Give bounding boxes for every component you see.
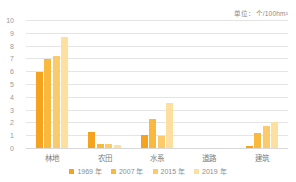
legend: 1969 年2007 年2015 年2019 年 — [0, 166, 296, 176]
bar — [61, 37, 68, 148]
x-axis-label: 建筑 — [236, 152, 288, 163]
legend-label: 1969 年 — [77, 166, 102, 176]
bar — [97, 144, 104, 148]
bar — [254, 133, 261, 148]
bar — [158, 136, 165, 148]
bar-chart: 单位：个/100hm² 109876543210 林地农田水系道路建筑 1969… — [0, 0, 296, 182]
y-tick-label: 9 — [0, 29, 14, 36]
legend-label: 2015 年 — [161, 166, 186, 176]
bar — [44, 59, 51, 148]
gridline — [26, 148, 288, 149]
legend-swatch — [194, 169, 199, 174]
y-tick-label: 4 — [0, 93, 14, 100]
y-tick-label: 0 — [0, 145, 14, 152]
bar-group — [141, 20, 174, 148]
bar — [105, 144, 112, 148]
bar — [88, 132, 95, 148]
legend-label: 2007 年 — [119, 166, 144, 176]
bar-groups — [26, 20, 288, 148]
x-axis-label: 农田 — [78, 152, 130, 163]
y-tick-label: 6 — [0, 68, 14, 75]
legend-label: 2019 年 — [202, 166, 227, 176]
unit-caption: 单位：个/100hm² — [234, 8, 288, 18]
x-axis-label: 道路 — [183, 152, 235, 163]
bar — [36, 72, 43, 148]
y-tick-label: 2 — [0, 119, 14, 126]
legend-swatch — [111, 169, 116, 174]
bar — [53, 56, 60, 148]
bar — [114, 145, 121, 148]
y-tick-label: 8 — [0, 42, 14, 49]
legend-swatch — [69, 169, 74, 174]
y-tick-label: 1 — [0, 132, 14, 139]
bar — [141, 135, 148, 148]
y-tick-label: 10 — [0, 17, 14, 24]
y-tick-label: 7 — [0, 55, 14, 62]
bar-group — [246, 20, 279, 148]
x-axis-label: 林地 — [26, 152, 78, 163]
y-tick-label: 3 — [0, 106, 14, 113]
bar-group — [88, 20, 121, 148]
bar-group — [36, 20, 69, 148]
bar — [246, 146, 253, 148]
x-axis-label: 水系 — [131, 152, 183, 163]
legend-swatch — [153, 169, 158, 174]
y-tick-label: 5 — [0, 81, 14, 88]
bar — [149, 119, 156, 148]
legend-item[interactable]: 1969 年 — [69, 166, 102, 176]
bar — [263, 126, 270, 148]
plot-area: 109876543210 — [26, 20, 288, 148]
bar-group — [193, 20, 226, 148]
legend-item[interactable]: 2007 年 — [111, 166, 144, 176]
bar — [166, 103, 173, 148]
legend-item[interactable]: 2015 年 — [153, 166, 186, 176]
legend-item[interactable]: 2019 年 — [194, 166, 227, 176]
bar — [271, 122, 278, 148]
